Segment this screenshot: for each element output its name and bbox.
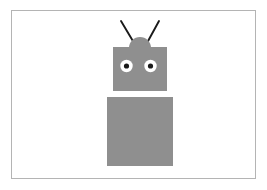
robot-torso [107, 97, 173, 166]
robot-illustration [0, 0, 267, 190]
right-eye-pupil [148, 63, 153, 68]
left-eye-pupil [124, 63, 129, 68]
image-canvas [0, 0, 267, 190]
